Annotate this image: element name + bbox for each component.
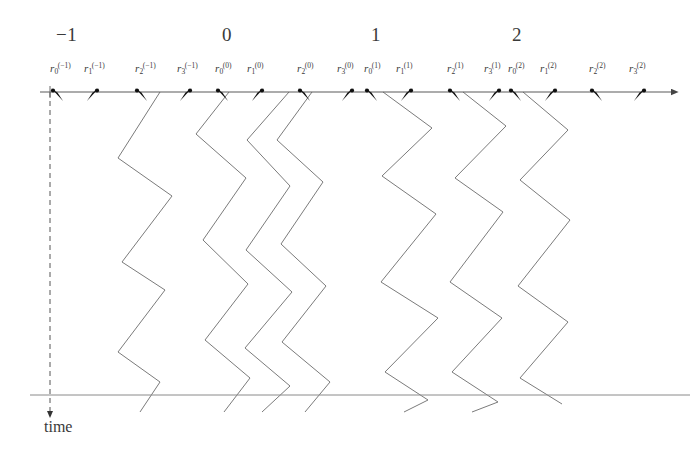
axis-tick-mark <box>509 88 521 101</box>
round-position-label: r3(2) <box>629 61 646 76</box>
tick-dot <box>298 88 302 92</box>
round-position-label: r0(−1) <box>50 61 71 76</box>
tick-dot <box>135 88 139 92</box>
round-position-label: r1(1) <box>396 61 413 76</box>
tick-dot <box>95 88 99 92</box>
round-position-label: r1(0) <box>247 61 264 76</box>
label-superscript: (0) <box>345 61 354 70</box>
tick-arrow <box>342 88 354 101</box>
label-base: r <box>247 62 251 74</box>
label-base: r <box>177 62 181 74</box>
label-superscript: (0) <box>305 61 314 70</box>
axis-tick-mark <box>489 88 501 101</box>
label-superscript: (−1) <box>92 61 105 70</box>
round-position-label: r0(1) <box>364 61 381 76</box>
label-superscript: (2) <box>516 61 525 70</box>
label-base: r <box>135 62 139 74</box>
trajectory-1 <box>118 92 172 412</box>
round-position-label: r0(2) <box>508 61 525 76</box>
trajectory-7 <box>245 92 292 412</box>
round-position-label: r0(0) <box>215 61 232 76</box>
axis-tick-mark <box>298 88 310 101</box>
label-superscript: (1) <box>372 61 381 70</box>
label-base: r <box>364 62 368 74</box>
label-base: r <box>297 62 301 74</box>
label-base: r <box>447 62 451 74</box>
axis-tick-mark <box>401 88 413 101</box>
label-superscript: (−1) <box>58 61 71 70</box>
tick-arrow <box>401 88 413 101</box>
tick-dot <box>216 88 220 92</box>
tick-dot <box>188 88 192 92</box>
tick-dot <box>497 88 501 92</box>
axis-tick-mark <box>634 88 646 101</box>
label-base: r <box>84 62 88 74</box>
tick-arrow <box>87 88 99 101</box>
trajectory-group <box>118 92 570 412</box>
tick-dot <box>509 88 513 92</box>
tick-arrow <box>448 88 460 101</box>
label-superscript: (1) <box>455 61 464 70</box>
tick-arrow <box>298 88 310 101</box>
trajectory-2 <box>196 92 250 412</box>
label-superscript: (−1) <box>143 61 156 70</box>
label-base: r <box>508 62 512 74</box>
label-base: r <box>629 62 633 74</box>
axis-tick-mark <box>135 88 147 101</box>
group-index-label: 1 <box>371 24 381 46</box>
round-position-label: r2(2) <box>589 61 606 76</box>
label-base: r <box>337 62 341 74</box>
time-axis-label: time <box>44 418 72 436</box>
round-position-label: r2(0) <box>297 61 314 76</box>
tick-dot <box>350 88 354 92</box>
axis-tick-mark <box>180 88 192 101</box>
label-superscript: (2) <box>637 61 646 70</box>
axis-tick-mark <box>342 88 354 101</box>
label-base: r <box>484 62 488 74</box>
label-superscript: (1) <box>492 61 501 70</box>
axis-tick-mark <box>87 88 99 101</box>
label-superscript: (0) <box>223 61 232 70</box>
round-position-label: r2(−1) <box>135 61 156 76</box>
round-position-label: r2(1) <box>447 61 464 76</box>
round-position-label: r1(2) <box>540 61 557 76</box>
tick-arrow <box>252 88 264 101</box>
tick-arrow <box>365 88 377 101</box>
axis-tick-mark <box>448 88 460 101</box>
tick-dot <box>590 88 594 92</box>
round-position-label: r1(−1) <box>84 61 105 76</box>
tick-dot <box>448 88 452 92</box>
label-superscript: (2) <box>548 61 557 70</box>
axis-tick-mark <box>252 88 264 101</box>
label-base: r <box>396 62 400 74</box>
trajectory-4 <box>381 92 438 412</box>
label-base: r <box>589 62 593 74</box>
label-superscript: (−1) <box>185 61 198 70</box>
tick-dot <box>642 88 646 92</box>
round-position-label: r3(1) <box>484 61 501 76</box>
label-superscript: (2) <box>597 61 606 70</box>
trajectory-5 <box>450 92 506 412</box>
round-position-label: r3(0) <box>337 61 354 76</box>
label-superscript: (0) <box>255 61 264 70</box>
tick-arrow <box>509 88 521 101</box>
tick-dot <box>553 88 557 92</box>
label-base: r <box>540 62 544 74</box>
tick-dot <box>365 88 369 92</box>
tick-dot <box>260 88 264 92</box>
round-position-label: r3(−1) <box>177 61 198 76</box>
label-base: r <box>215 62 219 74</box>
group-index-label: −1 <box>56 24 77 46</box>
trajectory-6 <box>518 92 570 404</box>
tick-mark-group <box>51 88 646 101</box>
axis-tick-mark <box>51 88 63 101</box>
group-index-label: 0 <box>222 24 232 46</box>
trajectory-3 <box>277 92 330 412</box>
tick-arrow <box>489 88 501 101</box>
axis-tick-mark <box>545 88 557 101</box>
tick-dot <box>409 88 413 92</box>
axis-tick-mark <box>365 88 377 101</box>
group-index-label: 2 <box>512 24 522 46</box>
label-superscript: (1) <box>404 61 413 70</box>
tick-dot <box>51 88 55 92</box>
